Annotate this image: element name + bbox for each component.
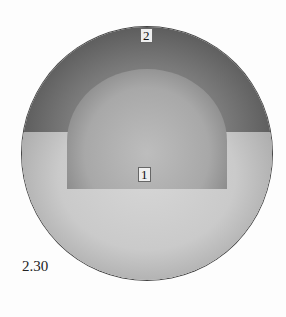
figure-stage: 2 1 2.30 xyxy=(0,0,286,317)
figure-number: 2.30 xyxy=(22,258,48,275)
region-label-1: 1 xyxy=(138,167,151,182)
embryo-image xyxy=(22,27,272,280)
region-label-2: 2 xyxy=(140,28,153,43)
